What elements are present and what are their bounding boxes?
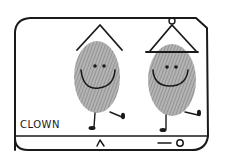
leg-icon <box>185 112 198 115</box>
foot-icon <box>89 126 96 130</box>
eye-icon <box>93 64 97 68</box>
eye-icon <box>174 65 178 69</box>
eye-icon <box>165 65 169 69</box>
leg-icon <box>94 113 95 127</box>
eye-icon <box>102 64 106 68</box>
foot-icon <box>197 110 201 116</box>
clown-right <box>146 18 201 132</box>
foot-icon <box>160 128 167 132</box>
leg-icon <box>110 112 122 117</box>
clown-left <box>74 25 125 130</box>
caret-up-icon <box>97 140 104 146</box>
clown-illustration: CLOWN <box>0 0 226 168</box>
bottom-bar <box>97 140 183 146</box>
foot-icon <box>121 113 125 119</box>
caption-label: CLOWN <box>20 119 60 130</box>
circle-icon <box>177 140 183 146</box>
